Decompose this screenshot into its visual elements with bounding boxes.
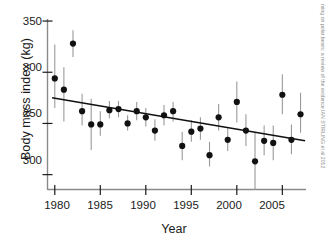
data-point	[261, 138, 267, 144]
data-point	[143, 114, 149, 120]
trend-line	[52, 98, 305, 141]
regression-line	[52, 98, 305, 141]
chart-figure: Body mass index (kg) 350 300 250 300 198…	[0, 0, 329, 244]
data-point	[252, 158, 258, 164]
data-point	[106, 107, 112, 113]
margin-citation: ming on polar bears: a review of the evi…	[304, 0, 328, 244]
data-point	[179, 143, 185, 149]
data-point	[225, 137, 231, 143]
axis-lines	[48, 19, 307, 190]
data-point	[297, 111, 303, 117]
data-point	[97, 121, 103, 127]
data-point	[197, 125, 203, 131]
data-point	[88, 121, 94, 127]
data-point	[170, 108, 176, 114]
data-point	[152, 128, 158, 134]
data-point	[216, 114, 222, 120]
data-point	[279, 92, 285, 98]
data-point	[243, 128, 249, 134]
data-point	[134, 108, 140, 114]
data-point	[234, 99, 240, 105]
data-point	[52, 75, 58, 81]
data-point	[270, 140, 276, 146]
data-point	[161, 112, 167, 118]
data-point	[61, 87, 67, 93]
data-point	[115, 106, 121, 112]
margin-citation-text: ming on polar bears: a review of the evi…	[320, 4, 326, 194]
data-point	[79, 108, 85, 114]
data-points	[52, 40, 304, 164]
plot-area	[0, 0, 329, 244]
data-point	[206, 152, 212, 158]
data-point	[70, 40, 76, 46]
data-point	[188, 129, 194, 135]
data-point	[288, 137, 294, 143]
data-point	[124, 120, 130, 126]
error-bars	[55, 30, 301, 190]
